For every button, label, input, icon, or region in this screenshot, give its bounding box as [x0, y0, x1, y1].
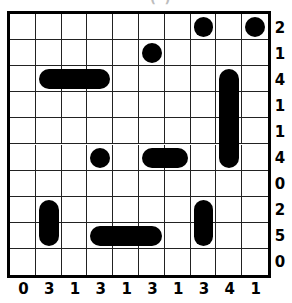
grid-cell[interactable] — [216, 171, 242, 197]
grid-cell[interactable] — [139, 249, 165, 275]
grid-cell[interactable] — [87, 14, 113, 40]
row-clue: 2 — [271, 19, 289, 37]
grid-cell[interactable] — [87, 118, 113, 144]
grid-cell[interactable] — [139, 92, 165, 118]
grid-cell[interactable] — [113, 92, 139, 118]
grid-cell[interactable] — [216, 40, 242, 66]
grid-cell[interactable] — [10, 249, 36, 275]
grid-cell[interactable] — [10, 66, 36, 92]
grid-cell[interactable] — [139, 66, 165, 92]
grid-cell[interactable] — [216, 223, 242, 249]
grid-cell[interactable] — [87, 92, 113, 118]
row-clue: 4 — [271, 71, 289, 89]
grid-cell[interactable] — [165, 249, 191, 275]
grid-cell[interactable] — [191, 66, 217, 92]
grid-cell[interactable] — [36, 145, 62, 171]
ship-segment — [142, 148, 188, 168]
grid-cell[interactable] — [113, 14, 139, 40]
grid-cell[interactable] — [10, 40, 36, 66]
grid-cell[interactable] — [216, 249, 242, 275]
grid-cell[interactable] — [242, 118, 268, 144]
grid-cell[interactable] — [62, 145, 88, 171]
grid-cell[interactable] — [165, 92, 191, 118]
grid-cell[interactable] — [165, 223, 191, 249]
grid-cell[interactable] — [62, 223, 88, 249]
grid-cell[interactable] — [139, 171, 165, 197]
grid-cell[interactable] — [165, 171, 191, 197]
grid-cell[interactable] — [191, 145, 217, 171]
grid-cell[interactable] — [36, 40, 62, 66]
grid-cell[interactable] — [242, 171, 268, 197]
grid-cell[interactable] — [10, 171, 36, 197]
ship-segment — [39, 200, 59, 246]
grid-cell[interactable] — [165, 66, 191, 92]
ship-segment — [90, 226, 161, 246]
grid-cell[interactable] — [165, 14, 191, 40]
grid-cell[interactable] — [113, 145, 139, 171]
grid-cell[interactable] — [87, 197, 113, 223]
puzzle-title-fragment: ( ) — [150, 0, 270, 5]
grid-cell[interactable] — [62, 92, 88, 118]
grid-cell[interactable] — [10, 197, 36, 223]
grid-cell[interactable] — [10, 14, 36, 40]
grid-cell[interactable] — [36, 118, 62, 144]
row-clue: 1 — [271, 45, 289, 63]
row-clue: 5 — [271, 227, 289, 245]
grid-cell[interactable] — [10, 118, 36, 144]
grid-cell[interactable] — [165, 40, 191, 66]
grid-cell[interactable] — [62, 171, 88, 197]
grid-cell[interactable] — [113, 66, 139, 92]
grid-cell[interactable] — [191, 171, 217, 197]
grid-cell[interactable] — [10, 145, 36, 171]
grid-cell[interactable] — [36, 14, 62, 40]
row-clue: 1 — [271, 123, 289, 141]
grid-cell[interactable] — [62, 118, 88, 144]
ship-segment — [245, 17, 265, 37]
row-clue: 4 — [271, 149, 289, 167]
grid-cell[interactable] — [139, 118, 165, 144]
grid-cell[interactable] — [10, 92, 36, 118]
column-clue: 1 — [62, 280, 88, 298]
row-clue: 2 — [271, 201, 289, 219]
grid-cell[interactable] — [165, 118, 191, 144]
grid-cell[interactable] — [242, 223, 268, 249]
grid-cell[interactable] — [36, 249, 62, 275]
grid-cell[interactable] — [242, 197, 268, 223]
grid-cell[interactable] — [87, 40, 113, 66]
grid-cell[interactable] — [216, 197, 242, 223]
grid-cell[interactable] — [36, 171, 62, 197]
ship-segment — [142, 43, 162, 63]
grid-cell[interactable] — [242, 92, 268, 118]
grid-cell[interactable] — [36, 92, 62, 118]
column-clue: 1 — [243, 280, 269, 298]
grid-cell[interactable] — [242, 249, 268, 275]
row-clue: 0 — [271, 175, 289, 193]
grid-cell[interactable] — [62, 249, 88, 275]
grid-cell[interactable] — [113, 249, 139, 275]
grid-cell[interactable] — [113, 171, 139, 197]
grid-cell[interactable] — [242, 145, 268, 171]
grid-cell[interactable] — [113, 118, 139, 144]
grid-cell[interactable] — [87, 249, 113, 275]
column-clue: 0 — [10, 280, 36, 298]
grid-cell[interactable] — [62, 197, 88, 223]
grid-cell[interactable] — [62, 40, 88, 66]
grid-cell[interactable] — [242, 66, 268, 92]
grid-cell[interactable] — [62, 14, 88, 40]
grid-cell[interactable] — [165, 197, 191, 223]
grid-cell[interactable] — [87, 171, 113, 197]
grid-cell[interactable] — [113, 40, 139, 66]
grid-cell[interactable] — [10, 223, 36, 249]
grid-cell[interactable] — [191, 92, 217, 118]
ship-segment — [219, 69, 239, 167]
ship-segment — [90, 148, 110, 168]
grid-cell[interactable] — [139, 197, 165, 223]
grid-cell[interactable] — [113, 197, 139, 223]
grid-cell[interactable] — [191, 249, 217, 275]
ship-segment — [39, 69, 110, 89]
grid-cell[interactable] — [242, 40, 268, 66]
grid-cell[interactable] — [139, 14, 165, 40]
grid-cell[interactable] — [216, 14, 242, 40]
grid-cell[interactable] — [191, 118, 217, 144]
grid-cell[interactable] — [191, 40, 217, 66]
